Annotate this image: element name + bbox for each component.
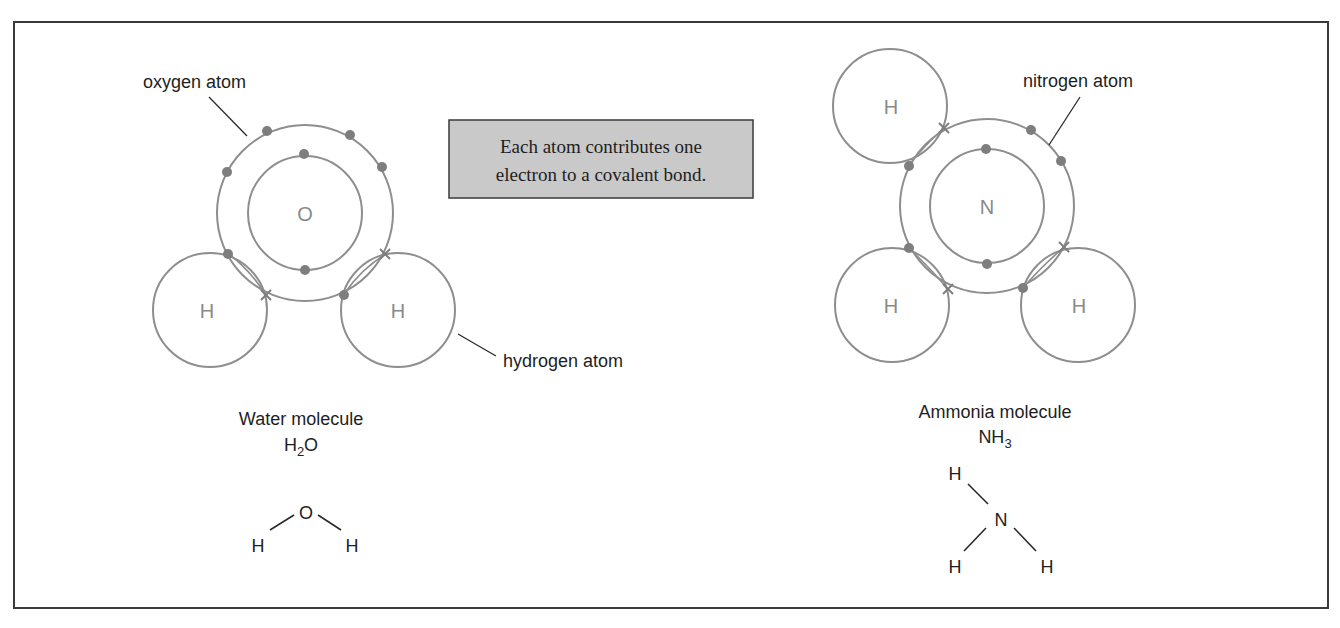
electron-dot: [262, 126, 272, 136]
ammonia-structural-formula: H N H H: [949, 464, 1054, 577]
electron-dot: [300, 265, 310, 275]
water-structural-o: O: [299, 503, 313, 523]
electron-dot: [904, 243, 914, 253]
oxygen-leader-line: [209, 97, 247, 136]
water-hydrogen-left-symbol: H: [200, 300, 214, 322]
electron-dot: [223, 249, 233, 259]
ammonia-caption-name: Ammonia molecule: [918, 402, 1071, 422]
ammonia-bond-line-bottom-right: [1014, 528, 1036, 551]
ammonia-bond-bottom-left: [909, 248, 948, 289]
water-structural-formula: O H H: [252, 503, 359, 556]
electron-dot: [1056, 156, 1066, 166]
ammonia-structural-h-bottom-right: H: [1041, 557, 1054, 577]
water-structural-h-left: H: [252, 536, 265, 556]
nitrogen-atom-label: nitrogen atom: [1023, 71, 1133, 91]
ammonia-structural-n: N: [995, 510, 1008, 530]
electron-dot: [345, 130, 355, 140]
electron-dot: [339, 290, 349, 300]
water-caption-name: Water molecule: [239, 409, 363, 429]
nitrogen-symbol: N: [980, 196, 994, 218]
note-box: [449, 120, 753, 198]
electron-dot: [299, 149, 309, 159]
water-bond-line-left: [270, 515, 294, 530]
ammonia-hydrogen-bottom-right-symbol: H: [1072, 295, 1086, 317]
covalent-bond-diagram: O H H oxygen atom hydrogen ato: [0, 0, 1340, 628]
nitrogen-leader-line: [1049, 97, 1080, 145]
electron-dot: [222, 167, 232, 177]
water-structural-h-right: H: [346, 536, 359, 556]
hydrogen-leader-line: [458, 334, 496, 356]
note-callout: Each atom contributes one electron to a …: [449, 120, 753, 198]
electron-dot: [982, 259, 992, 269]
ammonia-hydrogen-top-symbol: H: [884, 96, 898, 118]
note-line-2: electron to a covalent bond.: [496, 164, 707, 185]
water-hydrogen-right-symbol: H: [391, 300, 405, 322]
ammonia-bond-top: [909, 128, 944, 165]
hydrogen-atom-label: hydrogen atom: [503, 351, 623, 371]
ammonia-structural-h-bottom-left: H: [949, 557, 962, 577]
electron-dot: [981, 144, 991, 154]
water-bond-line-right: [318, 515, 341, 530]
ammonia-structural-h-top: H: [949, 464, 962, 484]
ammonia-bond-line-bottom-left: [964, 528, 986, 551]
electron-dot: [1018, 283, 1028, 293]
note-line-1: Each atom contributes one: [500, 136, 702, 157]
ammonia-molecule-model: N H H H nit: [833, 49, 1135, 577]
water-caption-formula: H2O: [284, 435, 318, 459]
electron-dot: [904, 161, 914, 171]
ammonia-hydrogen-bottom-left-symbol: H: [884, 295, 898, 317]
oxygen-symbol: O: [297, 203, 313, 225]
electron-dot: [377, 162, 387, 172]
oxygen-atom-label: oxygen atom: [143, 72, 246, 92]
electron-dot: [1026, 125, 1036, 135]
ammonia-bond-line-top: [968, 484, 988, 504]
ammonia-caption-formula: NH3: [978, 427, 1011, 451]
ammonia-bond-bottom-right: [1023, 248, 1063, 288]
